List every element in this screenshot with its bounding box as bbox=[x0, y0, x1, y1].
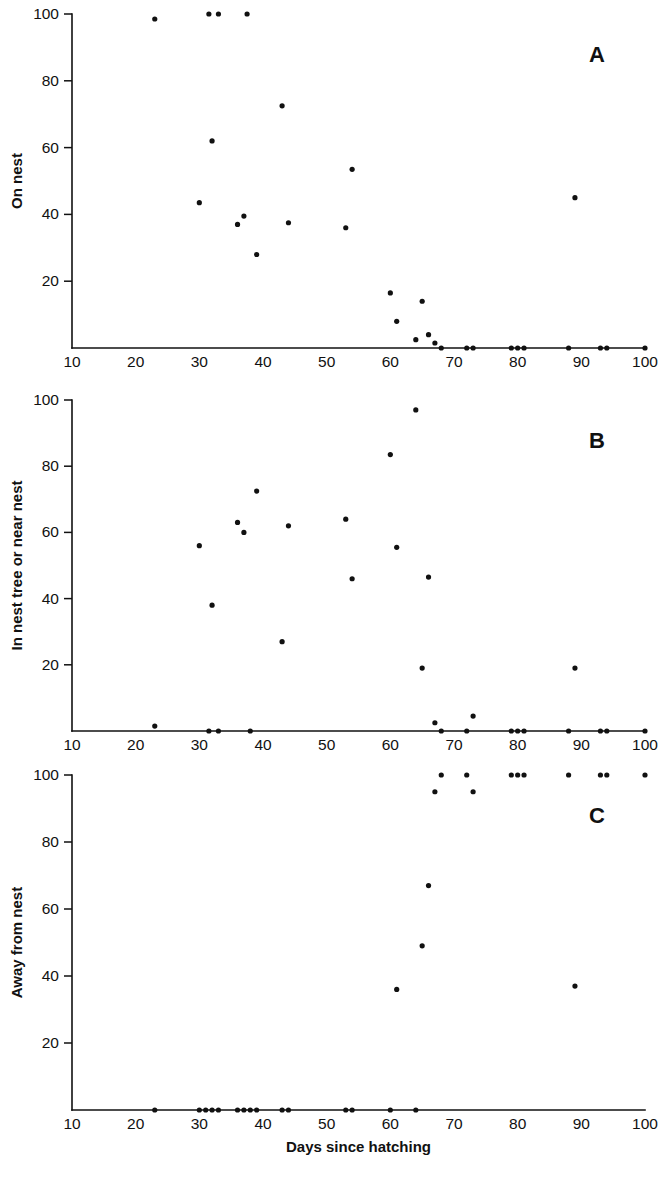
data-point bbox=[280, 103, 285, 108]
data-points bbox=[152, 772, 647, 1112]
data-point bbox=[152, 1107, 157, 1112]
data-point bbox=[515, 772, 520, 777]
x-axis-tick-label: 40 bbox=[254, 1115, 272, 1132]
data-point bbox=[604, 728, 609, 733]
data-point bbox=[343, 1107, 348, 1112]
x-axis-tick-label: 50 bbox=[318, 736, 336, 753]
data-point bbox=[197, 543, 202, 548]
data-point bbox=[254, 488, 259, 493]
y-axis-tick-label: 40 bbox=[42, 205, 60, 222]
data-point bbox=[216, 1107, 221, 1112]
x-axis-tick-label: 90 bbox=[573, 736, 591, 753]
x-axis-tick-label: 40 bbox=[254, 353, 272, 370]
figure-container: 20406080100102030405060708090100On nestA… bbox=[0, 0, 667, 1186]
x-axis-tick-label: 70 bbox=[445, 736, 463, 753]
x-axis-tick-label: 100 bbox=[632, 1115, 658, 1132]
data-point bbox=[432, 789, 437, 794]
data-point bbox=[420, 666, 425, 671]
data-point bbox=[572, 195, 577, 200]
data-point bbox=[216, 728, 221, 733]
data-point bbox=[206, 728, 211, 733]
data-point bbox=[509, 772, 514, 777]
data-point bbox=[521, 345, 526, 350]
data-point bbox=[432, 340, 437, 345]
data-point bbox=[350, 1107, 355, 1112]
panel-b: 20406080100102030405060708090100In nest … bbox=[0, 388, 667, 762]
data-point bbox=[598, 728, 603, 733]
x-axis-tick-label: 80 bbox=[509, 353, 527, 370]
x-axis-tick-label: 10 bbox=[63, 353, 81, 370]
data-point bbox=[248, 728, 253, 733]
y-axis-tick-label: 60 bbox=[42, 900, 60, 917]
x-axis-tick-label: 90 bbox=[573, 1115, 591, 1132]
x-axis-tick-label: 20 bbox=[127, 353, 145, 370]
data-point bbox=[241, 1107, 246, 1112]
data-point bbox=[572, 666, 577, 671]
x-axis-tick-label: 70 bbox=[445, 353, 463, 370]
data-point bbox=[509, 728, 514, 733]
data-point bbox=[216, 11, 221, 16]
data-point bbox=[566, 772, 571, 777]
x-axis-tick-label: 70 bbox=[445, 1115, 463, 1132]
data-point bbox=[388, 290, 393, 295]
x-axis-tick-label: 40 bbox=[254, 736, 272, 753]
data-point bbox=[426, 883, 431, 888]
panel-a: 20406080100102030405060708090100On nestA bbox=[0, 0, 667, 382]
x-axis-tick-label: 100 bbox=[632, 736, 658, 753]
data-point bbox=[241, 530, 246, 535]
x-axis-tick-label: 30 bbox=[191, 736, 209, 753]
y-axis-tick-label: 20 bbox=[42, 272, 60, 289]
y-axis-tick-label: 100 bbox=[33, 766, 59, 783]
data-point bbox=[343, 517, 348, 522]
data-point bbox=[572, 983, 577, 988]
data-point bbox=[286, 1107, 291, 1112]
data-point bbox=[235, 520, 240, 525]
scatter-plot-a: 20406080100102030405060708090100On nestA bbox=[0, 0, 667, 382]
data-point bbox=[521, 772, 526, 777]
data-point bbox=[471, 345, 476, 350]
panel-letter-b: B bbox=[589, 428, 605, 453]
data-point bbox=[197, 200, 202, 205]
x-axis-title: Days since hatching bbox=[286, 1138, 431, 1155]
data-point bbox=[432, 720, 437, 725]
data-point bbox=[471, 714, 476, 719]
data-point bbox=[420, 943, 425, 948]
y-axis-title: On nest bbox=[8, 153, 25, 209]
y-axis-tick-label: 40 bbox=[42, 590, 60, 607]
data-point bbox=[642, 772, 647, 777]
data-point bbox=[509, 345, 514, 350]
y-axis-tick-label: 60 bbox=[42, 523, 60, 540]
data-point bbox=[439, 345, 444, 350]
x-axis-tick-label: 60 bbox=[382, 1115, 400, 1132]
y-axis-tick-label: 80 bbox=[42, 833, 60, 850]
data-point bbox=[604, 772, 609, 777]
x-axis-tick-label: 20 bbox=[127, 736, 145, 753]
scatter-plot-c: 20406080100102030405060708090100Away fro… bbox=[0, 764, 667, 1186]
data-point bbox=[280, 1107, 285, 1112]
data-point bbox=[566, 728, 571, 733]
data-point bbox=[209, 1107, 214, 1112]
y-axis-tick-label: 80 bbox=[42, 72, 60, 89]
panel-c: 20406080100102030405060708090100Away fro… bbox=[0, 764, 667, 1186]
x-axis-tick-label: 90 bbox=[573, 353, 591, 370]
data-point bbox=[254, 252, 259, 257]
y-axis-tick-label: 100 bbox=[33, 391, 59, 408]
data-point bbox=[642, 345, 647, 350]
data-point bbox=[152, 16, 157, 21]
data-point bbox=[394, 319, 399, 324]
data-point bbox=[350, 576, 355, 581]
panel-letter-c: C bbox=[589, 803, 605, 828]
x-axis-tick-label: 30 bbox=[191, 353, 209, 370]
x-axis-tick-label: 80 bbox=[509, 736, 527, 753]
data-point bbox=[394, 545, 399, 550]
data-point bbox=[209, 138, 214, 143]
data-point bbox=[280, 639, 285, 644]
data-points bbox=[152, 407, 647, 733]
data-point bbox=[343, 225, 348, 230]
x-axis-tick-label: 100 bbox=[632, 353, 658, 370]
data-point bbox=[413, 1107, 418, 1112]
scatter-plot-b: 20406080100102030405060708090100In nest … bbox=[0, 388, 667, 762]
y-axis-tick-label: 100 bbox=[33, 5, 59, 22]
data-point bbox=[464, 345, 469, 350]
data-point bbox=[388, 1107, 393, 1112]
